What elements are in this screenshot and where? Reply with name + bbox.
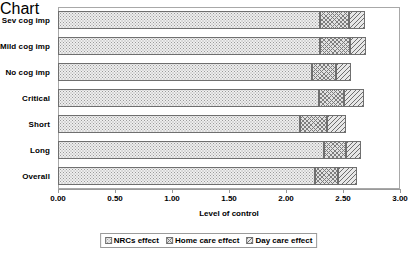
stacked-bar-chart: Sev cog impMild cog impNo cog impCritica… — [0, 0, 417, 254]
bar-segment — [320, 37, 350, 55]
bar-segment — [58, 115, 300, 133]
bar-row — [58, 37, 400, 55]
x-axis-tick-labels: 0.000.501.001.502.002.503.00 — [58, 194, 400, 206]
legend-label: Day care effect — [255, 236, 312, 245]
bar-segment — [58, 63, 312, 81]
x-axis-tick-label: 2.50 — [335, 194, 351, 203]
bar-segment — [319, 89, 344, 107]
bar-row — [58, 11, 400, 29]
x-axis-tick — [172, 189, 173, 193]
legend-swatch-icon — [246, 237, 253, 244]
bar-segment — [320, 11, 349, 29]
bar-row — [58, 141, 400, 159]
x-axis-tick — [229, 189, 230, 193]
category-label: Critical — [0, 94, 54, 103]
bar-segment — [312, 63, 336, 81]
bars-layer — [58, 7, 400, 189]
bar-segment — [324, 141, 347, 159]
category-label: Mild cog imp — [0, 42, 54, 51]
bar-segment — [338, 167, 356, 185]
x-axis-tick — [343, 189, 344, 193]
category-label: No cog imp — [0, 68, 54, 77]
bar-segment — [350, 37, 366, 55]
bar-segment — [58, 167, 315, 185]
bar-row — [58, 89, 400, 107]
x-axis-line — [58, 189, 400, 190]
bar-segment — [58, 141, 324, 159]
legend-swatch-icon — [166, 237, 173, 244]
x-axis-tick — [115, 189, 116, 193]
bar-segment — [346, 141, 361, 159]
legend-item: NRCs effect — [105, 236, 159, 245]
legend-item: Home care effect — [166, 236, 239, 245]
bar-segment — [344, 89, 363, 107]
x-axis-tick — [286, 189, 287, 193]
x-axis-title: Level of control — [58, 209, 400, 218]
chart-legend: NRCs effectHome care effectDay care effe… — [100, 233, 318, 248]
bar-segment — [315, 167, 339, 185]
bar-segment — [300, 115, 327, 133]
x-axis-tick-label: 1.00 — [164, 194, 180, 203]
bar-row — [58, 167, 400, 185]
bar-segment — [349, 11, 365, 29]
category-label: Long — [0, 146, 54, 155]
legend-label: NRCs effect — [114, 236, 159, 245]
bar-segment — [336, 63, 351, 81]
category-label: Short — [0, 120, 54, 129]
category-label: Overall — [0, 172, 54, 181]
legend-label: Home care effect — [175, 236, 239, 245]
x-axis-tick-label: 3.00 — [392, 194, 408, 203]
bar-segment — [58, 37, 320, 55]
bar-row — [58, 63, 400, 81]
x-axis-tick-label: 0.50 — [107, 194, 123, 203]
category-axis-labels: Sev cog impMild cog impNo cog impCritica… — [0, 7, 54, 189]
x-axis-tick — [58, 189, 59, 193]
legend-swatch-icon — [105, 237, 112, 244]
category-label: Sev cog imp — [0, 16, 54, 25]
bar-segment — [58, 89, 319, 107]
x-axis-tick-label: 2.00 — [278, 194, 294, 203]
bar-segment — [327, 115, 346, 133]
x-axis-tick — [400, 189, 401, 193]
bar-segment — [58, 11, 320, 29]
x-axis-tick-label: 0.00 — [50, 194, 66, 203]
bar-row — [58, 115, 400, 133]
legend-item: Day care effect — [246, 236, 312, 245]
x-axis-tick-label: 1.50 — [221, 194, 237, 203]
